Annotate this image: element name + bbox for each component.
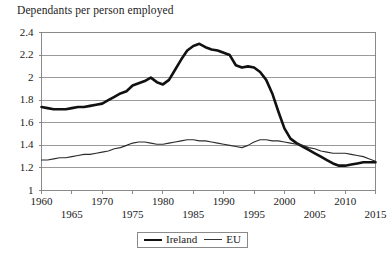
y-tick-label: 1.4 <box>8 138 34 150</box>
x-tick-label: 1975 <box>116 208 150 220</box>
legend-line-icon-eu <box>204 239 222 240</box>
x-tick-label: 1990 <box>207 195 241 207</box>
y-tick-label: 1.2 <box>8 161 34 173</box>
y-tick-label: 1.8 <box>8 93 34 105</box>
chart-figure: Dependants per person employed 11.21.41.… <box>0 0 392 264</box>
series-line-ireland <box>42 44 376 166</box>
y-tick-label: 2.2 <box>8 48 34 60</box>
gridlines <box>42 55 376 168</box>
legend-label-eu: EU <box>226 234 241 245</box>
y-tick-label: 2 <box>8 71 34 83</box>
axis-frame <box>42 33 376 191</box>
x-tick-label: 1985 <box>176 208 210 220</box>
x-tick-label: 2010 <box>328 195 362 207</box>
y-tick-label: 2.4 <box>8 26 34 38</box>
legend-item-eu: EU <box>204 234 241 245</box>
legend-line-icon-ireland <box>144 239 162 241</box>
x-tick-label: 2005 <box>298 208 332 220</box>
x-tick-label: 1980 <box>146 195 180 207</box>
x-tick-label: 2015 <box>359 208 392 220</box>
y-tick-label: 1.6 <box>8 116 34 128</box>
axis-tickmarks <box>39 33 376 194</box>
x-tick-label: 2000 <box>267 195 301 207</box>
chart-legend: Ireland EU <box>137 232 248 248</box>
plot-area <box>0 0 392 264</box>
legend-item-ireland: Ireland <box>144 234 197 245</box>
x-tick-label: 1960 <box>25 195 59 207</box>
x-tick-label: 1965 <box>55 208 89 220</box>
legend-label-ireland: Ireland <box>166 234 197 245</box>
x-tick-label: 1995 <box>237 208 271 220</box>
data-series <box>42 44 376 166</box>
x-tick-label: 1970 <box>85 195 119 207</box>
